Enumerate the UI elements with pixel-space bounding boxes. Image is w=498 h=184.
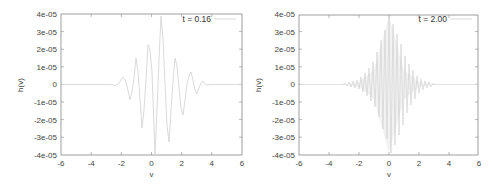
x-tick-label: 2 [417, 159, 422, 168]
plot-panel-t016: 4e-05 3e-05 2e-05 1e-05 0 -1e-05 -2e-05 … [0, 0, 249, 184]
x-axis-label: v [150, 170, 154, 179]
y-tick-label: 1e-05 [275, 63, 296, 72]
x-tick-label: -6 [295, 159, 303, 168]
x-tick-label: 0 [149, 159, 154, 168]
y-tick-label: -1e-05 [272, 98, 296, 107]
y-tick-labels: 4e-05 3e-05 2e-05 1e-05 0 -1e-05 -2e-05 … [34, 10, 58, 160]
x-tick-label: 4 [447, 159, 452, 168]
y-tick-label: 0 [291, 80, 296, 89]
legend: t = 2.00 [418, 14, 472, 24]
plot-panel-t200: 4e-05 3e-05 2e-05 1e-05 0 -1e-05 -2e-05 … [249, 0, 498, 184]
x-tick-label: -6 [57, 159, 65, 168]
y-tick-label: -4e-05 [34, 151, 58, 160]
y-axis-label: h(v) [16, 78, 25, 92]
x-tick-label: -2 [118, 159, 126, 168]
x-tick-labels: -6 -4 -2 0 2 4 6 [57, 159, 244, 168]
x-tick-label: -4 [88, 159, 96, 168]
x-tick-label: 0 [387, 159, 392, 168]
x-tick-labels: -6 -4 -2 0 2 4 6 [295, 159, 481, 168]
x-tick-label: 4 [210, 159, 215, 168]
y-tick-label: 4e-05 [275, 10, 296, 19]
y-tick-labels: 4e-05 3e-05 2e-05 1e-05 0 -1e-05 -2e-05 … [272, 10, 296, 160]
y-tick-label: -2e-05 [34, 116, 58, 125]
y-tick-label: 2e-05 [275, 45, 296, 54]
plot-svg-right: 4e-05 3e-05 2e-05 1e-05 0 -1e-05 -2e-05 … [249, 0, 498, 184]
y-tick-label: -2e-05 [272, 116, 296, 125]
y-tick-label: -4e-05 [272, 151, 296, 160]
x-tick-label: 6 [477, 159, 482, 168]
x-tick-label: -2 [355, 159, 363, 168]
waveform-t200 [343, 16, 435, 153]
y-axis-label: h(v) [254, 78, 263, 92]
y-tick-label: 2e-05 [37, 45, 58, 54]
plot-svg-left: 4e-05 3e-05 2e-05 1e-05 0 -1e-05 -2e-05 … [0, 0, 249, 184]
y-tick-label: 3e-05 [37, 28, 58, 37]
y-tick-label: -3e-05 [272, 133, 296, 142]
x-tick-label: 6 [240, 159, 245, 168]
x-tick-label: 2 [179, 159, 184, 168]
waveform-t016 [61, 16, 242, 154]
legend: t = 0.16 [182, 14, 236, 24]
y-tick-label: -1e-05 [34, 98, 58, 107]
y-tick-label: 3e-05 [275, 28, 296, 37]
legend-label: t = 0.16 [182, 14, 211, 24]
y-tick-label: 0 [53, 80, 58, 89]
x-axis-label: v [387, 170, 391, 179]
legend-label: t = 2.00 [418, 14, 447, 24]
x-tick-label: -4 [325, 159, 333, 168]
y-tick-label: 4e-05 [37, 10, 58, 19]
y-tick-label: -3e-05 [34, 133, 58, 142]
y-tick-label: 1e-05 [37, 63, 58, 72]
